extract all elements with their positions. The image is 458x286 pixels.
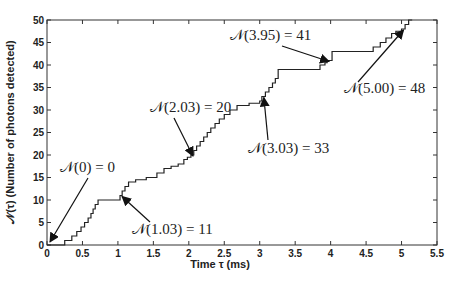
x-tick-label: 1.5 xyxy=(146,248,160,259)
x-tick-label: 5 xyxy=(399,248,405,259)
y-axis-label: 𝒩(τ) (Number of photons detected) xyxy=(4,40,16,225)
x-tick-label: 5.5 xyxy=(430,248,444,259)
y-tick-label: 5 xyxy=(38,217,44,228)
annotation-n4: 𝒩(3.95) = 41 xyxy=(230,27,311,44)
x-tick-label: 0 xyxy=(44,248,50,259)
y-tick-label: 0 xyxy=(38,240,44,251)
y-tick-label: 45 xyxy=(33,37,45,48)
x-tick-label: 4.5 xyxy=(359,248,373,259)
y-tick-label: 10 xyxy=(33,195,45,206)
annotation-n5: 𝒩(5.00) = 48 xyxy=(344,80,425,97)
y-tick-label: 40 xyxy=(33,60,45,71)
annotation-n2: 𝒩(2.03) = 20 xyxy=(150,99,231,116)
annotation-n1: 𝒩(1.03) = 11 xyxy=(132,221,213,238)
x-tick-label: 0.5 xyxy=(76,248,90,259)
y-tick-label: 15 xyxy=(33,172,45,183)
x-tick-label: 4 xyxy=(328,248,334,259)
x-tick-label: 3.5 xyxy=(288,248,302,259)
y-tick-label: 35 xyxy=(33,82,45,93)
y-tick-label: 25 xyxy=(33,127,45,138)
annotation-n3: 𝒩(3.03) = 33 xyxy=(248,140,329,157)
y-tick-label: 20 xyxy=(33,150,45,161)
x-tick-label: 1 xyxy=(115,248,121,259)
x-tick-label: 3 xyxy=(257,248,263,259)
annotation-n0: 𝒩(0) = 0 xyxy=(60,159,115,176)
x-axis-label: Time τ (ms) xyxy=(190,258,250,270)
y-tick-label: 50 xyxy=(33,15,45,26)
plot-area xyxy=(47,20,437,245)
photon-count-step-chart: 00.511.522.533.544.555.50510152025303540… xyxy=(0,0,458,286)
y-tick-label: 30 xyxy=(33,105,45,116)
